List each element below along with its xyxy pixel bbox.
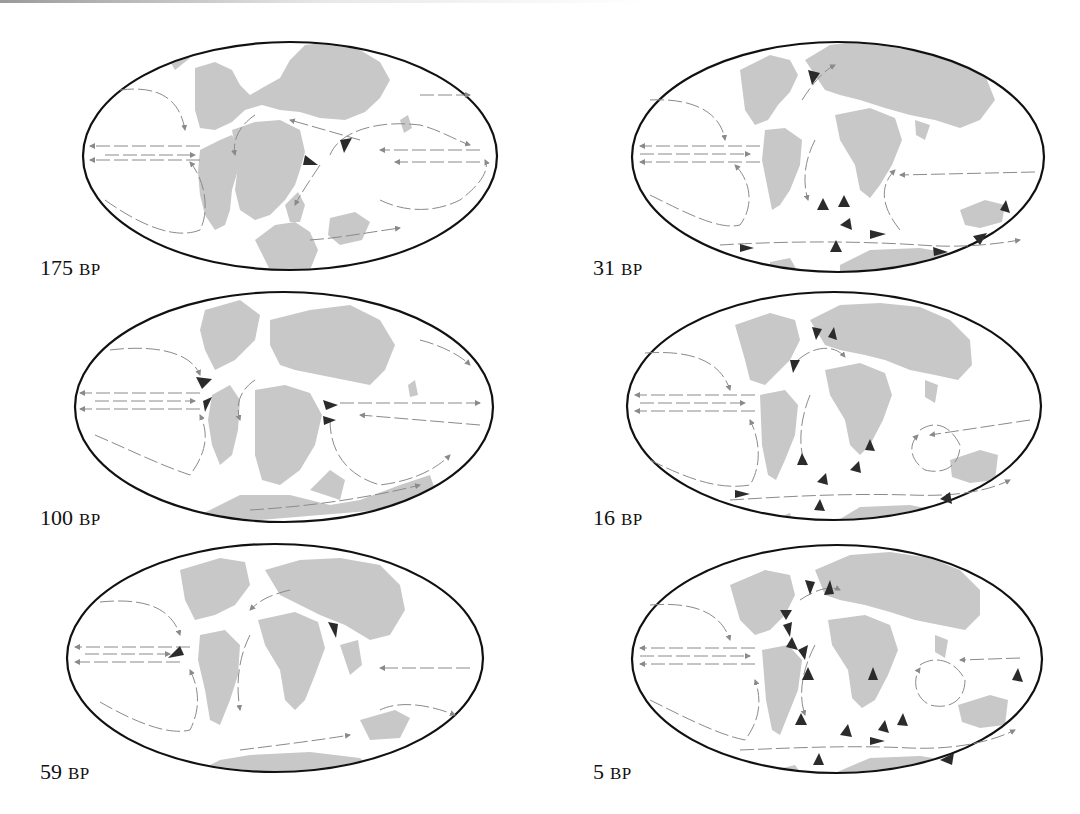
age-value: 31 xyxy=(593,255,615,280)
landmasses xyxy=(160,40,412,270)
map-panel-175bp: 175BP xyxy=(0,0,540,285)
age-unit: BP xyxy=(79,510,101,529)
age-label-31bp: 31BP xyxy=(593,255,643,281)
age-label-5bp: 5BP xyxy=(593,759,632,785)
age-label-100bp: 100BP xyxy=(40,505,101,531)
major-current-arrows xyxy=(303,138,352,165)
age-label-59bp: 59BP xyxy=(40,759,90,785)
age-value: 59 xyxy=(40,759,62,784)
map-31bp xyxy=(540,0,1080,285)
map-panel-59bp: 59BP xyxy=(0,540,540,814)
ocean-currents xyxy=(75,590,470,750)
age-value: 16 xyxy=(593,505,615,530)
landmasses xyxy=(180,558,410,772)
age-value: 100 xyxy=(40,505,73,530)
age-unit: BP xyxy=(68,764,90,783)
age-label-175bp: 175BP xyxy=(40,255,101,281)
map-panel-5bp: 5BP xyxy=(540,540,1080,814)
age-unit: BP xyxy=(621,510,643,529)
age-unit: BP xyxy=(610,764,632,783)
major-arrow xyxy=(303,155,318,165)
map-100bp xyxy=(0,285,540,540)
major-arrow xyxy=(340,138,352,153)
age-label-16bp: 16BP xyxy=(593,505,643,531)
map-panel-16bp: 16BP xyxy=(540,285,1080,540)
map-panel-100bp: 100BP xyxy=(0,285,540,540)
age-value: 175 xyxy=(40,255,73,280)
map-16bp xyxy=(540,285,1080,540)
age-unit: BP xyxy=(79,260,101,279)
age-value: 5 xyxy=(593,759,604,784)
map-panel-31bp: 31BP xyxy=(540,0,1080,285)
landmasses xyxy=(740,40,1005,275)
landmasses xyxy=(730,552,1008,775)
map-175bp xyxy=(0,0,540,285)
landmasses xyxy=(190,300,440,525)
age-unit: BP xyxy=(621,260,643,279)
